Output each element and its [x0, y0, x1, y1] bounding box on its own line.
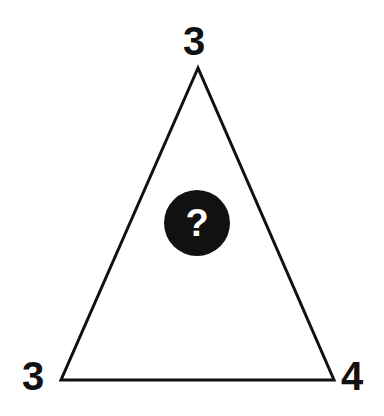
vertex-bottom-left-number: 3	[22, 356, 44, 396]
triangle-puzzle: 3 3 4 ?	[0, 0, 384, 416]
vertex-top-number: 3	[183, 21, 205, 61]
vertex-bottom-right-number: 4	[341, 356, 363, 396]
question-mark-badge: ?	[164, 190, 230, 256]
